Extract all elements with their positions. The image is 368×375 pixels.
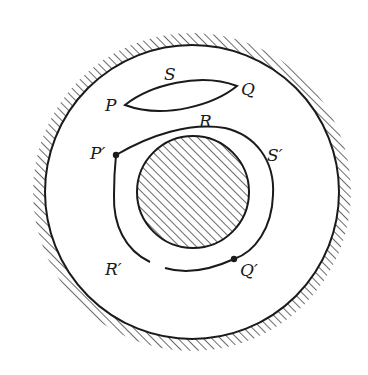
inner-obstacle [137, 136, 249, 248]
point-Q-prime-dot [231, 256, 237, 262]
label-P: P [104, 95, 117, 115]
label-Q-prime: Q′ [240, 260, 258, 280]
label-P-prime: P′ [89, 143, 105, 163]
point-P-prime-dot [113, 152, 119, 158]
diagram-canvas: S Q P R P′ S′ R′ Q′ [0, 0, 368, 375]
label-R: R [198, 111, 212, 131]
label-S: S [164, 64, 176, 84]
label-S-prime: S′ [267, 145, 283, 165]
label-Q: Q [241, 79, 255, 99]
label-R-prime: R′ [104, 259, 122, 279]
